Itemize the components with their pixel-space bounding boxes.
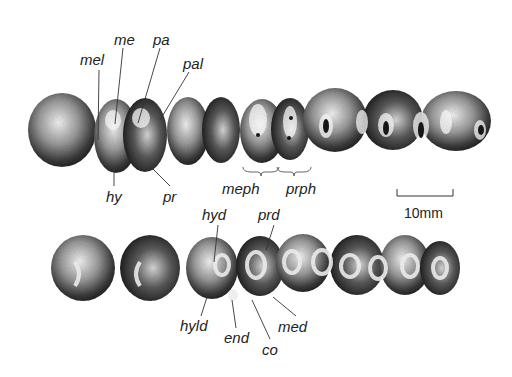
label-med: med <box>278 319 307 334</box>
label-hy: hy <box>106 189 122 204</box>
label-prph: prph <box>286 181 316 196</box>
label-hyd: hyd <box>202 207 226 222</box>
lower-tooth-8 <box>420 241 460 295</box>
lower-tooth-1 <box>51 235 115 301</box>
label-mel: mel <box>80 52 104 67</box>
meph-brace <box>243 167 279 176</box>
lower-tooth-2 <box>120 235 180 301</box>
lower-tooth-row <box>51 234 460 301</box>
upper-tooth-1 <box>28 93 96 167</box>
label-pa: pa <box>153 32 170 47</box>
label-co: co <box>262 342 278 357</box>
scale-bar-label: 10mm <box>404 206 443 220</box>
label-me: me <box>114 32 135 47</box>
upper-tooth-5 <box>202 97 240 163</box>
label-pr: pr <box>163 189 176 204</box>
prph-brace <box>277 167 311 176</box>
scale-bar <box>397 189 453 196</box>
label-hyld: hyld <box>180 318 208 333</box>
label-prd: prd <box>258 207 280 222</box>
leader-lines <box>98 48 296 339</box>
label-pal: pal <box>183 56 203 71</box>
brace-marks <box>243 167 311 176</box>
label-meph: meph <box>222 181 260 196</box>
label-end: end <box>224 330 249 345</box>
upper-tooth-row <box>28 88 491 173</box>
